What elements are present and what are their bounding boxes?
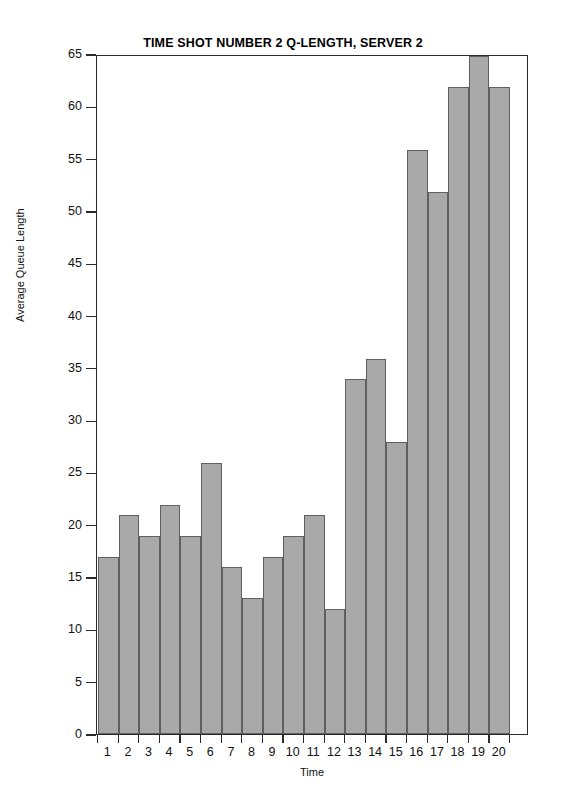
y-axis-tick-label: 50 <box>48 205 82 218</box>
x-axis-tick <box>427 735 428 743</box>
bar <box>304 515 325 734</box>
x-axis-tick <box>344 735 345 743</box>
x-axis-tick <box>468 735 469 743</box>
y-axis-tick-label: 0 <box>48 728 82 741</box>
bar <box>139 536 160 734</box>
bar <box>180 536 201 734</box>
x-axis-tick <box>324 735 325 743</box>
y-axis-tick-label: 20 <box>48 519 82 532</box>
x-axis-title: Time <box>96 766 528 778</box>
x-axis-tick <box>118 735 119 743</box>
bar <box>160 505 181 734</box>
y-axis-tick-label: 15 <box>48 571 82 584</box>
bar <box>407 150 428 734</box>
y-axis-tick <box>86 54 96 55</box>
y-axis-tick-label: 30 <box>48 414 82 427</box>
bars-container <box>97 56 527 734</box>
y-axis-labels: 05101520253035404550556065 <box>44 0 82 812</box>
y-axis-tick-label: 65 <box>48 48 82 61</box>
y-axis-tick-label: 40 <box>48 310 82 323</box>
y-axis-tick-label: 25 <box>48 466 82 479</box>
bar <box>448 87 469 734</box>
y-axis-tick <box>86 734 96 735</box>
x-axis-tick <box>488 735 489 743</box>
x-axis-tick <box>97 735 98 743</box>
x-axis-tick <box>385 735 386 743</box>
x-axis-tick <box>509 735 510 743</box>
bar <box>366 359 387 735</box>
bar <box>325 609 346 734</box>
y-axis-tick-label: 35 <box>48 362 82 375</box>
x-axis-tick <box>282 735 283 743</box>
y-axis-tick <box>86 577 96 578</box>
chart-title: TIME SHOT NUMBER 2 Q-LENGTH, SERVER 2 <box>0 36 566 50</box>
x-axis-tick <box>221 735 222 743</box>
x-axis-tick <box>138 735 139 743</box>
bar <box>469 56 490 734</box>
y-axis-tick <box>86 211 96 212</box>
bar <box>98 557 119 734</box>
y-axis-tick-label: 10 <box>48 623 82 636</box>
y-axis-tick <box>86 368 96 369</box>
bar <box>242 598 263 734</box>
x-axis-tick <box>200 735 201 743</box>
y-axis-tick <box>86 159 96 160</box>
x-axis-tick <box>365 735 366 743</box>
bar <box>283 536 304 734</box>
bar <box>386 442 407 734</box>
x-axis-tick <box>159 735 160 743</box>
y-axis-tick <box>86 682 96 683</box>
x-axis-tick <box>241 735 242 743</box>
y-axis-tick <box>86 421 96 422</box>
bar <box>345 379 366 734</box>
chart-figure: TIME SHOT NUMBER 2 Q-LENGTH, SERVER 2 Av… <box>0 0 566 812</box>
x-axis-tick <box>447 735 448 743</box>
y-axis-tick <box>86 630 96 631</box>
x-axis-tick <box>303 735 304 743</box>
bar <box>201 463 222 734</box>
y-axis-title: Average Queue Length <box>14 142 36 322</box>
y-axis-tick <box>86 473 96 474</box>
x-axis-tick <box>179 735 180 743</box>
y-axis-tick-label: 5 <box>48 676 82 689</box>
x-axis-tick-label: 20 <box>484 746 514 759</box>
y-axis-tick <box>86 525 96 526</box>
bar <box>428 192 449 734</box>
y-axis-tick-label: 60 <box>48 100 82 113</box>
bar <box>263 557 284 734</box>
x-axis-tick <box>406 735 407 743</box>
bar <box>489 87 510 734</box>
bar <box>222 567 243 734</box>
y-axis-tick <box>86 264 96 265</box>
y-axis-tick <box>86 316 96 317</box>
y-axis-tick <box>86 107 96 108</box>
y-axis-tick-label: 45 <box>48 257 82 270</box>
y-axis-tick-label: 55 <box>48 153 82 166</box>
x-axis-tick <box>262 735 263 743</box>
bar <box>119 515 140 734</box>
